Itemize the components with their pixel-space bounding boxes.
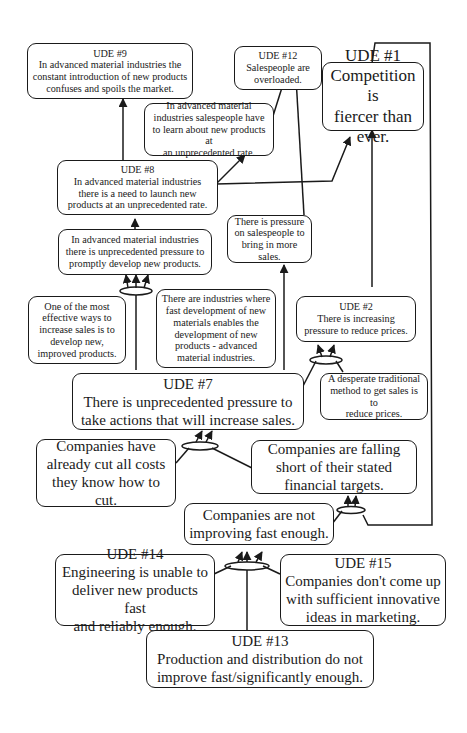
line-ude14-to-and bbox=[214, 566, 231, 574]
node-pressure-salespeople: There is pressure on salespeople to brin… bbox=[227, 215, 312, 263]
node-ude12-title: UDE #12 bbox=[259, 50, 298, 62]
line-falling-to-and-ude7 bbox=[212, 448, 252, 468]
node-effective-ways: One of the most effective ways to increa… bbox=[28, 296, 126, 364]
and-connector-develop bbox=[120, 287, 152, 295]
node-ude12: UDE #12 Salespeople are overloaded. bbox=[234, 46, 322, 90]
line-costs-to-and-ude7 bbox=[176, 448, 189, 463]
node-ude13-title: UDE #13 bbox=[231, 632, 288, 650]
line-ude15-to-and bbox=[263, 566, 280, 574]
node-ude14-title: UDE #14 bbox=[106, 545, 163, 563]
node-cut-costs: Companies have already cut all costs the… bbox=[36, 439, 176, 507]
node-ude13: UDE #13 Production and distribution do n… bbox=[146, 630, 374, 688]
line-pressure-to-and-ude12 bbox=[296, 78, 304, 215]
node-ude9-title: UDE #9 bbox=[93, 48, 127, 60]
node-ude2: UDE #2 There is increasing pressure to r… bbox=[296, 296, 416, 342]
node-industries: There are industries where fast developm… bbox=[156, 289, 276, 368]
node-develop-pressure: In advanced material industries there is… bbox=[58, 229, 212, 275]
node-not-improving: Companies are not improving fast enough. bbox=[184, 503, 334, 545]
node-ude15-title: UDE #15 bbox=[334, 554, 391, 572]
node-learn: In advanced material industries salespeo… bbox=[144, 103, 274, 156]
node-ude8: UDE #8 In advanced material industries t… bbox=[57, 160, 218, 215]
node-ude9: UDE #9 In advanced material industries t… bbox=[27, 43, 193, 99]
arrow-ude8-to-learn bbox=[216, 155, 245, 184]
node-ude8-title: UDE #8 bbox=[121, 164, 155, 176]
node-ude1-title: UDE #1 bbox=[345, 46, 401, 66]
line-ude7-to-and-ude2 bbox=[302, 361, 316, 388]
node-desperate-method: A desperate traditional method to get sa… bbox=[320, 373, 428, 420]
node-ude15: UDE #15 Companies don't come up with suf… bbox=[280, 554, 446, 626]
node-ude2-title: UDE #2 bbox=[339, 301, 373, 313]
node-ude14: UDE #14 Engineering is unable to deliver… bbox=[55, 554, 215, 626]
and-connector-not-improving bbox=[225, 562, 269, 570]
node-ude7-title: UDE #7 bbox=[163, 375, 213, 393]
node-falling-short: Companies are falling short of their sta… bbox=[251, 440, 417, 494]
node-ude1: UDE #1 Competition is fiercer than ever. bbox=[322, 62, 424, 131]
node-ude7: UDE #7 There is unprecedented pressure t… bbox=[72, 373, 304, 430]
